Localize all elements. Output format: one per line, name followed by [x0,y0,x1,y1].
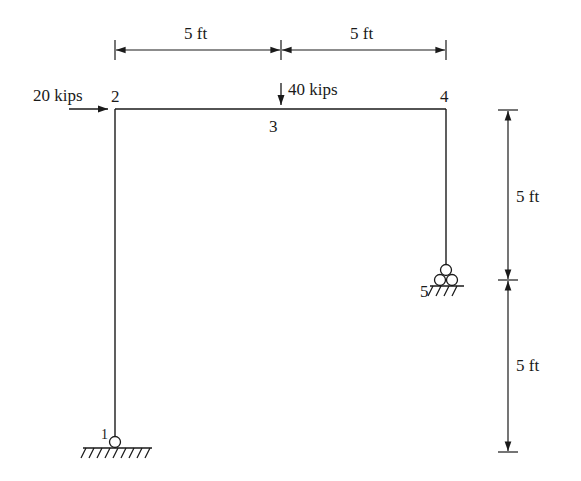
frame-drawing [0,0,581,481]
node-label-4: 4 [440,88,449,105]
load-label-vertical: 40 kips [288,81,338,98]
right-dimension [498,110,518,452]
node-label-3: 3 [269,118,278,135]
node-label-2: 2 [111,88,120,105]
top-dim-label-left: 5 ft [184,25,207,42]
top-dimension [115,40,446,60]
pin-support-icon [81,437,152,459]
load-label-horizontal: 20 kips [33,87,83,104]
right-dim-label-lower: 5 ft [516,357,539,374]
node-label-1: 1 [101,426,108,443]
frame-members [115,109,446,437]
top-dim-label-right: 5 ft [350,25,373,42]
frame-diagram: 5 ft 5 ft 5 ft 5 ft 20 kips 40 kips 1 2 … [0,0,581,481]
right-dim-label-upper: 5 ft [516,188,539,205]
roller-support-icon [428,265,464,297]
node-label-5: 5 [420,283,429,300]
load-arrows [69,83,281,109]
